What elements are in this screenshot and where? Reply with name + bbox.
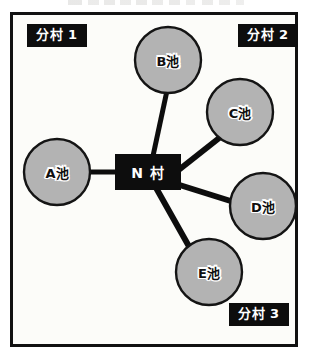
node-a-label: A池 xyxy=(45,163,68,182)
tag-subvillage-2: 分村 2 xyxy=(238,24,298,47)
node-e-label: E池 xyxy=(198,263,220,282)
node-n-label: N 村 xyxy=(131,162,165,182)
node-c-label: C池 xyxy=(229,103,252,122)
diagram-page: A池 B池 C池 D池 E池 N 村 分村 1 分村 2 分村 3 xyxy=(0,0,311,355)
node-b-label: B池 xyxy=(157,51,180,70)
tag-subvillage-1: 分村 1 xyxy=(27,24,87,47)
node-d-label: D池 xyxy=(251,197,275,216)
edge-n-to-e xyxy=(155,186,191,250)
tag-subvillage-3: 分村 3 xyxy=(229,303,289,326)
